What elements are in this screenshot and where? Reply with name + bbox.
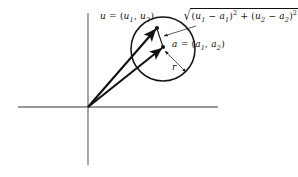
term2-minus: − bbox=[265, 11, 279, 21]
label-radius: r bbox=[172, 63, 177, 72]
vector-distance-diagram: u = (u1, u2) a = (a1, a2) r √(u1 − a1)2 … bbox=[0, 0, 298, 177]
label-u-name: u bbox=[100, 11, 106, 21]
segment-u-to-a bbox=[157, 29, 163, 47]
label-u-comma: , bbox=[134, 11, 137, 21]
point-u-marker bbox=[155, 26, 159, 30]
label-a-comma: , bbox=[205, 39, 208, 49]
term1-minus: − bbox=[206, 11, 220, 21]
label-point-a: a = (a1, a2) bbox=[172, 40, 225, 51]
diagram-canvas bbox=[0, 0, 298, 177]
term2-exponent: 2 bbox=[293, 9, 297, 17]
radicand: (u1 − a1)2 + (u2 − a2)2 bbox=[190, 8, 298, 23]
label-distance-formula: √(u1 − a1)2 + (u2 − a2)2 bbox=[183, 8, 298, 23]
label-a-equals: = bbox=[181, 39, 189, 49]
plus-operator: + bbox=[237, 11, 251, 21]
label-u-equals: = bbox=[109, 11, 117, 21]
label-a-close-paren: ) bbox=[221, 39, 225, 49]
label-u-close-paren: ) bbox=[150, 11, 154, 21]
label-a-name: a bbox=[172, 39, 178, 49]
coordinate-axes bbox=[18, 13, 218, 165]
radical-sign: √ bbox=[184, 9, 191, 22]
point-a-marker bbox=[161, 45, 165, 49]
radical-group: √(u1 − a1)2 + (u2 − a2)2 bbox=[183, 8, 298, 23]
vector-to-u bbox=[88, 30, 156, 108]
label-point-u: u = (u1, u2) bbox=[100, 12, 154, 23]
